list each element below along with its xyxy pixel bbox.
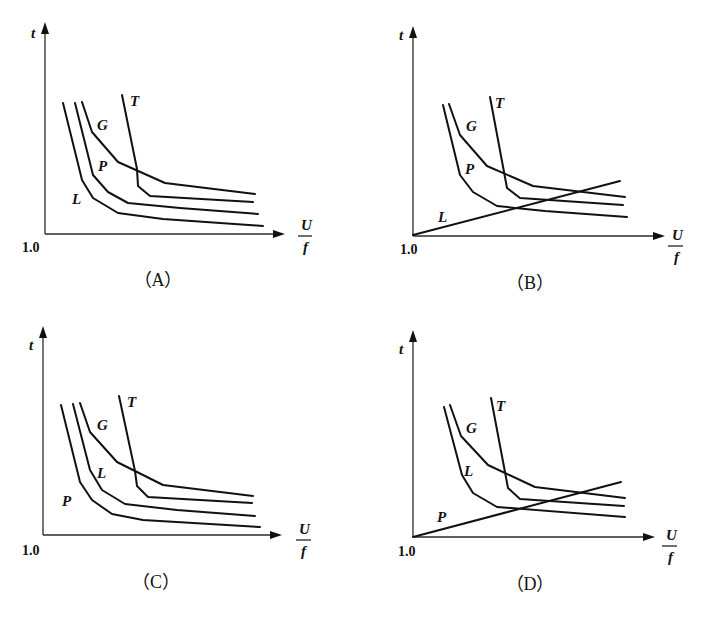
y-axis-arrow-icon: [41, 22, 49, 34]
x-axis-label-numerator: U: [666, 527, 678, 543]
origin-label: 1.0: [400, 242, 418, 257]
curve-label-g: G: [466, 420, 477, 436]
x-axis-label-denominator: f: [668, 549, 675, 565]
x-axis-arrow-icon: [270, 531, 282, 539]
curve-label-t: T: [496, 398, 506, 414]
x-axis-label-denominator: f: [301, 543, 308, 559]
panel-caption: （B）: [506, 273, 554, 293]
curve-label-l: L: [96, 465, 106, 481]
curve-l: [63, 103, 263, 226]
x-axis-label-numerator: U: [301, 217, 313, 233]
origin-label: 1.0: [22, 543, 40, 558]
curve-label-p: P: [62, 493, 72, 509]
curve-label-l: L: [463, 463, 473, 479]
panel-caption: （C）: [132, 572, 180, 592]
x-axis-label-numerator: U: [672, 227, 684, 243]
curve-label-l: L: [437, 209, 447, 225]
panel-a: LPGTtUf1.0（A）: [22, 22, 313, 290]
panel-c: PLGTtUf1.0（C）: [22, 326, 311, 592]
curve-label-g: G: [97, 117, 108, 133]
panel-caption: （D）: [506, 574, 555, 594]
x-axis-label-denominator: f: [303, 239, 310, 255]
x-axis-label-numerator: U: [299, 521, 311, 537]
curve-label-p: P: [465, 161, 475, 177]
y-axis-label: t: [31, 25, 36, 41]
curve-label-p: P: [437, 509, 447, 525]
y-axis-label: t: [399, 27, 404, 43]
panel-b: LPGTtUf1.0（B）: [399, 26, 684, 293]
curve-label-p: P: [98, 158, 108, 174]
x-axis-label-denominator: f: [674, 249, 681, 265]
x-axis-arrow-icon: [273, 230, 285, 238]
y-axis-arrow-icon: [409, 330, 417, 342]
curve-label-g: G: [466, 118, 477, 134]
x-axis-arrow-icon: [643, 533, 655, 541]
x-axis-arrow-icon: [653, 232, 665, 240]
curve-g: [82, 102, 255, 194]
y-axis-label: t: [399, 341, 404, 357]
curve-label-l: L: [71, 191, 81, 207]
curve-label-t: T: [130, 93, 140, 109]
curve-label-t: T: [127, 394, 137, 410]
curve-label-t: T: [495, 95, 505, 111]
figure-canvas: LPGTtUf1.0（A）LPGTtUf1.0（B）PLGTtUf1.0（C）P…: [0, 0, 710, 620]
curve-label-g: G: [97, 417, 108, 433]
origin-label: 1.0: [398, 544, 416, 559]
panel-d: PLGTtUf1.0（D）: [398, 330, 678, 594]
y-axis-arrow-icon: [409, 26, 417, 38]
curve-g: [450, 405, 625, 498]
origin-label: 1.0: [22, 240, 40, 255]
y-axis-label: t: [29, 337, 34, 353]
panel-caption: （A）: [134, 270, 183, 290]
y-axis-arrow-icon: [39, 326, 47, 338]
